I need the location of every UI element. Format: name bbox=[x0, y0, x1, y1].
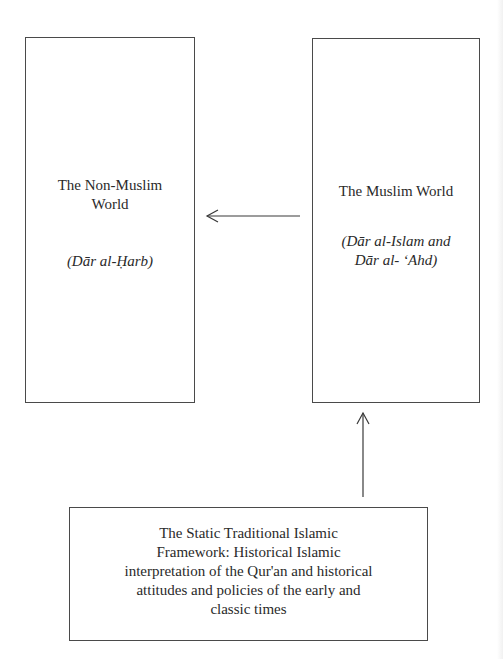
page-edge-shade bbox=[497, 0, 503, 659]
arrow-framework-to-muslim-world bbox=[357, 413, 369, 497]
arrow-muslim-to-non-muslim bbox=[207, 210, 300, 222]
diagram-arrows bbox=[0, 0, 503, 659]
